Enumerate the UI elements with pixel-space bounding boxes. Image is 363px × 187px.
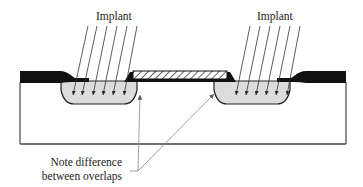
note-line-1: Note difference xyxy=(50,156,122,168)
gate xyxy=(133,71,227,79)
implant-diagram: Implant Implant Note difference between … xyxy=(0,0,363,187)
note-line-2: between overlaps xyxy=(42,170,123,183)
implant-region-right xyxy=(214,81,290,104)
leader-lines xyxy=(130,94,214,171)
implant-label-left: Implant xyxy=(96,10,133,23)
field-oxide-left xyxy=(20,71,89,83)
field-oxide-right xyxy=(277,71,346,83)
implant-label-right: Implant xyxy=(257,10,294,23)
